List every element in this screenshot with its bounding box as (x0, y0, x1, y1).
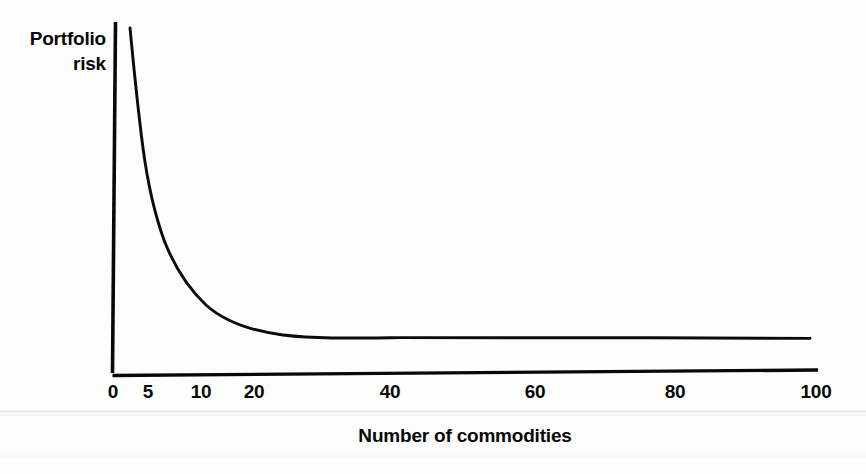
x-tick-label-0: 0 (108, 381, 118, 403)
x-tick-label-100: 100 (801, 381, 832, 403)
y-axis-line (113, 22, 116, 373)
risk-decay-curve (130, 28, 810, 338)
x-tick-label-40: 40 (380, 381, 401, 403)
x-tick-label-5: 5 (143, 381, 153, 403)
y-axis-title: Portfolio risk (0, 26, 106, 76)
x-axis-line (113, 370, 819, 376)
y-axis-title-line-1: Portfolio (0, 26, 106, 51)
x-axis-title: Number of commodities (358, 425, 571, 447)
x-tick-label-10: 10 (191, 381, 212, 403)
x-tick-label-60: 60 (525, 381, 546, 403)
plot-area (0, 0, 866, 474)
x-tick-label-20: 20 (244, 381, 265, 403)
x-tick-label-80: 80 (665, 381, 686, 403)
y-axis-title-line-2: risk (0, 51, 106, 76)
chart-figure: Portfolio risk 0 5 10 20 40 60 80 100 Nu… (0, 0, 866, 474)
